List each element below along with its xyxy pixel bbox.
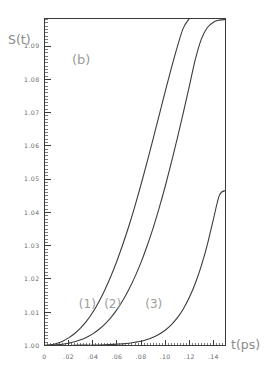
x-tick-label: .04 [87, 353, 98, 360]
x-axis-tick-labels: 0.02.04.06.08.10.12.14 [42, 353, 219, 360]
x-tick-label: .06 [111, 353, 122, 360]
curve-2 [45, 20, 226, 346]
y-tick-label: 1.07 [24, 109, 39, 116]
x-tick-label: .02 [63, 353, 74, 360]
y-axis-title: S(t) [8, 32, 31, 47]
x-axis-title: t(ps) [231, 337, 260, 352]
x-tick-label: .08 [136, 353, 147, 360]
y-tick-label: 1.02 [24, 275, 39, 282]
y-tick-label: 1.05 [24, 175, 39, 182]
y-tick-label: 1.06 [24, 142, 39, 149]
x-tick-label: .10 [160, 353, 171, 360]
curve-labels: (1)(2)(3) [79, 297, 162, 311]
line-chart: 1.001.011.021.031.041.051.061.071.081.09… [0, 0, 272, 382]
x-tick-label: .12 [184, 353, 195, 360]
y-tick-label: 1.01 [24, 309, 39, 316]
y-tick-label: 1.03 [24, 242, 39, 249]
y-axis-tick-labels: 1.001.011.021.031.041.051.061.071.081.09 [24, 42, 39, 348]
data-curves [45, 19, 226, 346]
plot-frame [45, 19, 226, 346]
y-tick-label: 1.08 [24, 76, 39, 83]
y-tick-label: 1.00 [24, 342, 39, 349]
curve-3 [45, 190, 226, 345]
x-tick-label: .14 [208, 353, 219, 360]
figure-panel-b: 1.001.011.021.031.041.051.061.071.081.09… [0, 0, 272, 382]
panel-label: (b) [72, 52, 90, 67]
curve-label-2: (2) [104, 297, 121, 311]
curve-label-3: (3) [145, 297, 162, 311]
curve-label-1: (1) [79, 297, 96, 311]
x-tick-label: 0 [42, 353, 46, 360]
y-tick-label: 1.04 [24, 209, 39, 216]
